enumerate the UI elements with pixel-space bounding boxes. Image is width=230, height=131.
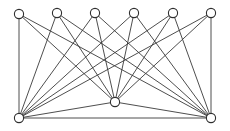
graph-canvas	[0, 0, 230, 131]
graph-edge	[19, 13, 173, 118]
graph-node	[14, 113, 23, 122]
graph-edge	[115, 13, 134, 102]
graph-node	[110, 97, 119, 106]
graph-edge	[134, 13, 211, 118]
graph-edge	[19, 13, 95, 118]
graph-node	[52, 8, 61, 17]
graph-edge	[19, 13, 57, 118]
graph-edge	[173, 13, 211, 118]
graph-node	[129, 8, 138, 17]
graph-edge	[57, 13, 211, 118]
graph-node	[90, 8, 99, 17]
graph-node	[206, 8, 215, 17]
graph-figure	[0, 0, 230, 131]
graph-edge	[57, 13, 115, 102]
graph-edge	[95, 13, 115, 102]
graph-node	[206, 113, 215, 122]
graph-node	[168, 8, 177, 17]
graph-node	[14, 9, 23, 18]
